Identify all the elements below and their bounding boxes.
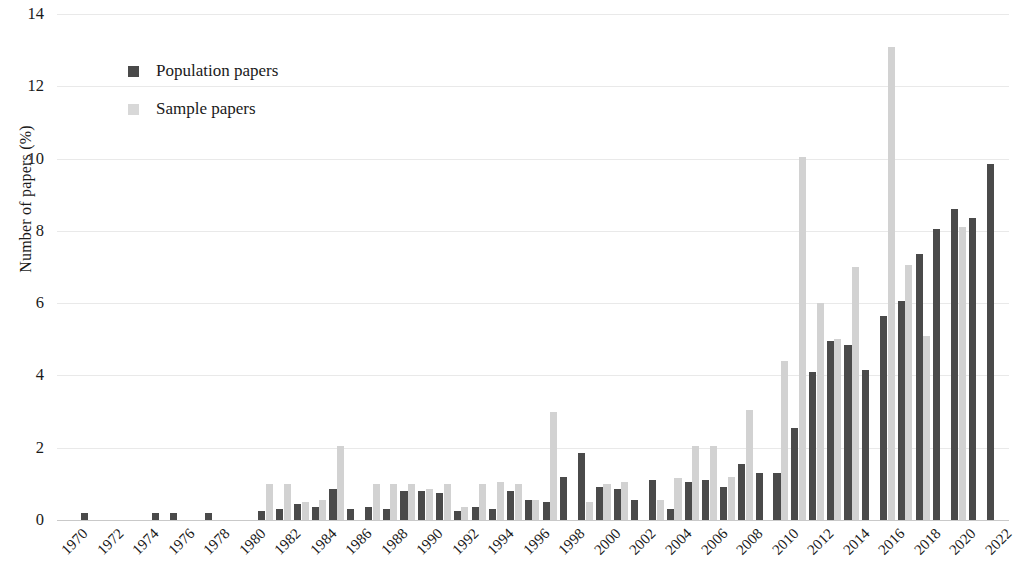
bar xyxy=(418,491,425,520)
bar xyxy=(525,500,532,520)
bar xyxy=(170,513,177,520)
y-axis-tick-label: 2 xyxy=(0,439,44,456)
y-axis-tick-label: 8 xyxy=(0,223,44,240)
chart-legend: Population papersSample papers xyxy=(128,52,278,128)
bar xyxy=(862,370,869,520)
bar xyxy=(454,511,461,520)
bar xyxy=(933,229,940,520)
bar xyxy=(497,482,504,520)
bar xyxy=(827,341,834,520)
bar xyxy=(560,477,567,520)
bar xyxy=(444,484,451,520)
bar xyxy=(408,484,415,520)
y-axis-title: Number of papers (%) xyxy=(17,69,35,329)
bar xyxy=(532,500,539,520)
bar xyxy=(543,502,550,520)
bar xyxy=(738,464,745,520)
bar xyxy=(479,484,486,520)
bar xyxy=(888,47,895,520)
bar xyxy=(773,473,780,520)
bar xyxy=(834,339,841,520)
bar xyxy=(586,502,593,520)
bar xyxy=(347,509,354,520)
bar xyxy=(923,336,930,520)
bar xyxy=(746,410,753,520)
bar xyxy=(507,491,514,520)
bar xyxy=(959,227,966,520)
bar xyxy=(710,446,717,520)
legend-label: Sample papers xyxy=(156,99,256,119)
bar xyxy=(667,509,674,520)
bar xyxy=(205,513,212,520)
bar xyxy=(596,487,603,520)
y-axis-tick-label: 12 xyxy=(0,78,44,95)
y-axis-tick-label: 10 xyxy=(0,150,44,167)
bar xyxy=(152,513,159,520)
bar xyxy=(614,489,621,520)
bar xyxy=(621,482,628,520)
bar xyxy=(631,500,638,520)
bar xyxy=(489,509,496,520)
bar xyxy=(905,265,912,520)
bar xyxy=(461,507,468,520)
bar xyxy=(258,511,265,520)
y-axis-tick-label: 14 xyxy=(0,6,44,23)
bar xyxy=(817,303,824,520)
bar xyxy=(781,361,788,520)
bar xyxy=(852,267,859,520)
bar xyxy=(329,489,336,520)
bar xyxy=(969,218,976,520)
bar xyxy=(472,507,479,520)
bar xyxy=(319,500,326,520)
legend-swatch-icon xyxy=(128,104,139,115)
bar xyxy=(400,491,407,520)
bar xyxy=(337,446,344,520)
bar xyxy=(880,316,887,520)
bar xyxy=(916,254,923,520)
bar xyxy=(898,301,905,520)
bar xyxy=(365,507,372,520)
bar xyxy=(692,446,699,520)
bar xyxy=(426,489,433,520)
bar xyxy=(383,509,390,520)
bar xyxy=(550,412,557,520)
bar xyxy=(515,484,522,520)
bar xyxy=(674,478,681,520)
bar xyxy=(728,477,735,520)
bar xyxy=(266,484,273,520)
bar xyxy=(302,502,309,520)
legend-label: Population papers xyxy=(156,61,278,81)
bar xyxy=(987,164,994,520)
bar xyxy=(657,500,664,520)
bar xyxy=(390,484,397,520)
bar xyxy=(81,513,88,520)
bar xyxy=(799,157,806,520)
bar xyxy=(756,473,763,520)
bar xyxy=(809,372,816,520)
bar xyxy=(294,504,301,520)
bar xyxy=(436,493,443,520)
legend-item: Sample papers xyxy=(128,90,278,128)
bar xyxy=(685,482,692,520)
bar xyxy=(276,509,283,520)
bar xyxy=(702,480,709,520)
y-axis-tick-label: 4 xyxy=(0,367,44,384)
bar xyxy=(951,209,958,520)
bar xyxy=(578,453,585,520)
bar xyxy=(373,484,380,520)
y-axis-tick-label: 0 xyxy=(0,512,44,529)
legend-item: Population papers xyxy=(128,52,278,90)
x-axis-ticks: 1970197219741976197819801982198419861988… xyxy=(57,520,1009,577)
bar xyxy=(603,484,610,520)
bar xyxy=(284,484,291,520)
legend-swatch-icon xyxy=(128,66,139,77)
bar xyxy=(844,345,851,520)
bar xyxy=(720,487,727,520)
bar xyxy=(312,507,319,520)
y-axis-tick-label: 6 xyxy=(0,295,44,312)
bar xyxy=(791,428,798,520)
bar xyxy=(649,480,656,520)
